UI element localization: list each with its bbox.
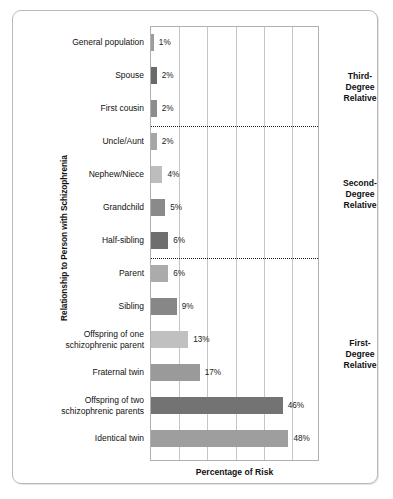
figure-frame: Relationship to Person with Schizophreni… — [12, 10, 378, 484]
bar-value-label: 2% — [162, 104, 174, 113]
bar-value-label: 48% — [293, 434, 309, 443]
bar: 17% — [151, 364, 200, 381]
bar-row: Offspring of one schizophrenic parent13% — [151, 323, 318, 356]
category-label: First cousin — [12, 103, 144, 114]
group-label-first-degree: First- Degree Relative — [331, 338, 389, 371]
plot-area: General population1%Spouse2%First cousin… — [150, 26, 319, 461]
bar: 2% — [151, 133, 157, 150]
category-label: Grandchild — [12, 202, 144, 213]
bar-value-label: 6% — [173, 269, 185, 278]
category-label: Nephew/Niece — [12, 169, 144, 180]
bar: 4% — [151, 166, 162, 183]
bar: 9% — [151, 298, 177, 315]
category-label: Offspring of two schizophrenic parents — [12, 395, 144, 416]
bar: 6% — [151, 265, 168, 282]
bar: 2% — [151, 100, 157, 117]
category-label: Half-sibling — [12, 235, 144, 246]
category-label: Sibling — [12, 301, 144, 312]
bar-value-label: 2% — [162, 71, 174, 80]
bar: 48% — [151, 430, 288, 447]
bar: 1% — [151, 34, 154, 51]
bar-value-label: 1% — [159, 38, 171, 47]
category-label: Fraternal twin — [12, 367, 144, 378]
category-label: Spouse — [12, 70, 144, 81]
bar-value-label: 46% — [288, 401, 304, 410]
group-label-third-degree: Third- Degree Relative — [331, 71, 389, 104]
bar-value-label: 17% — [205, 368, 221, 377]
bar-value-label: 4% — [167, 170, 179, 179]
bar-row: Parent6% — [151, 257, 318, 290]
category-label: Offspring of one schizophrenic parent — [12, 329, 144, 350]
bar: 2% — [151, 67, 157, 84]
bar-row: Fraternal twin17% — [151, 356, 318, 389]
bar: 5% — [151, 199, 165, 216]
bar: 46% — [151, 397, 283, 414]
bar-row: Sibling9% — [151, 290, 318, 323]
x-axis-title: Percentage of Risk — [150, 467, 319, 477]
category-label: Identical twin — [12, 433, 144, 444]
bar-row: Nephew/Niece4% — [151, 158, 318, 191]
bar-value-label: 2% — [162, 137, 174, 146]
bar-row: Identical twin48% — [151, 422, 318, 455]
bar-row: General population1% — [151, 26, 318, 59]
bar: 6% — [151, 232, 168, 249]
bar-row: Half-sibling6% — [151, 224, 318, 257]
bar-row: First cousin2% — [151, 92, 318, 125]
group-label-second-degree: Second- Degree Relative — [331, 178, 389, 211]
bar-value-label: 5% — [170, 203, 182, 212]
category-label: General population — [12, 37, 144, 48]
bar-value-label: 13% — [193, 335, 209, 344]
bar-value-label: 9% — [182, 302, 194, 311]
bar-row: Uncle/Aunt2% — [151, 125, 318, 158]
bar: 13% — [151, 331, 188, 348]
bar-value-label: 6% — [173, 236, 185, 245]
bar-row: Spouse2% — [151, 59, 318, 92]
category-label: Uncle/Aunt — [12, 136, 144, 147]
bar-row: Offspring of two schizophrenic parents46… — [151, 389, 318, 422]
category-label: Parent — [12, 268, 144, 279]
bar-row: Grandchild5% — [151, 191, 318, 224]
